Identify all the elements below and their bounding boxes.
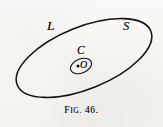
figure-46: L S C O FIG.46. [0,0,163,127]
label-center-point-O: O [80,60,87,70]
caption-prefix-smallcaps: IG. [70,106,82,115]
caption-number: 46. [85,105,99,115]
figure-caption: FIG.46. [0,105,163,115]
label-inner-curve-C: C [77,45,85,57]
label-outer-curve-L: L [47,19,55,33]
label-region-S: S [123,20,129,33]
